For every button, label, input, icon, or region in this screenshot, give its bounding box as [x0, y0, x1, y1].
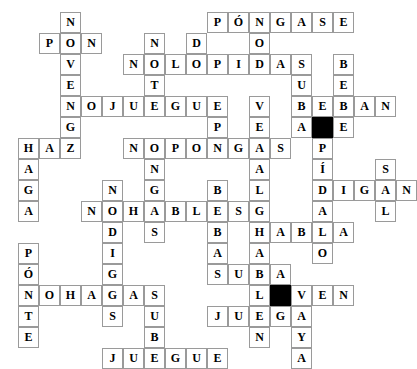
crossword-letter-cell[interactable]: J [102, 96, 123, 117]
crossword-letter-cell[interactable]: E [333, 117, 354, 138]
crossword-letter-cell[interactable]: Ó [228, 12, 249, 33]
crossword-letter-cell[interactable]: B [291, 96, 312, 117]
crossword-letter-cell[interactable]: A [123, 285, 144, 306]
crossword-letter-cell[interactable]: N [81, 33, 102, 54]
crossword-letter-cell[interactable]: S [102, 306, 123, 327]
crossword-letter-cell[interactable]: A [39, 138, 60, 159]
crossword-letter-cell[interactable]: Í [312, 159, 333, 180]
crossword-letter-cell[interactable]: E [333, 12, 354, 33]
crossword-letter-cell[interactable]: E [312, 285, 333, 306]
crossword-letter-cell[interactable]: G [18, 180, 39, 201]
crossword-letter-cell[interactable]: G [270, 12, 291, 33]
crossword-letter-cell[interactable]: N [102, 180, 123, 201]
crossword-letter-cell[interactable]: I [228, 54, 249, 75]
crossword-letter-cell[interactable]: A [144, 201, 165, 222]
crossword-letter-cell[interactable]: T [18, 306, 39, 327]
crossword-letter-cell[interactable]: G [102, 285, 123, 306]
crossword-letter-cell[interactable]: V [60, 54, 81, 75]
crossword-letter-cell[interactable]: E [249, 306, 270, 327]
crossword-letter-cell[interactable]: G [270, 306, 291, 327]
crossword-letter-cell[interactable]: T [144, 75, 165, 96]
crossword-letter-cell[interactable]: L [375, 201, 396, 222]
crossword-letter-cell[interactable]: A [312, 201, 333, 222]
crossword-letter-cell[interactable]: Y [291, 327, 312, 348]
crossword-letter-cell[interactable]: O [81, 96, 102, 117]
crossword-letter-cell[interactable]: E [18, 327, 39, 348]
crossword-letter-cell[interactable]: U [123, 348, 144, 369]
crossword-letter-cell[interactable]: S [144, 222, 165, 243]
crossword-letter-cell[interactable]: B [249, 264, 270, 285]
crossword-letter-cell[interactable]: O [249, 33, 270, 54]
crossword-letter-cell[interactable]: D [249, 54, 270, 75]
crossword-letter-cell[interactable]: J [102, 348, 123, 369]
crossword-letter-cell[interactable]: I [333, 180, 354, 201]
crossword-letter-cell[interactable]: O [312, 243, 333, 264]
crossword-letter-cell[interactable]: U [186, 96, 207, 117]
crossword-letter-cell[interactable]: A [291, 117, 312, 138]
crossword-letter-cell[interactable]: N [396, 180, 417, 201]
crossword-letter-cell[interactable]: G [165, 348, 186, 369]
crossword-letter-cell[interactable]: L [186, 201, 207, 222]
crossword-letter-cell[interactable]: H [60, 285, 81, 306]
crossword-block-cell[interactable] [270, 285, 291, 306]
crossword-letter-cell[interactable]: H [18, 138, 39, 159]
crossword-letter-cell[interactable]: N [81, 201, 102, 222]
crossword-letter-cell[interactable]: S [228, 201, 249, 222]
crossword-letter-cell[interactable]: B [333, 54, 354, 75]
crossword-letter-cell[interactable]: U [228, 264, 249, 285]
crossword-letter-cell[interactable]: O [144, 138, 165, 159]
crossword-letter-cell[interactable]: A [249, 159, 270, 180]
crossword-letter-cell[interactable]: L [249, 285, 270, 306]
crossword-letter-cell[interactable]: P [207, 117, 228, 138]
crossword-letter-cell[interactable]: A [207, 243, 228, 264]
crossword-letter-cell[interactable]: H [123, 201, 144, 222]
crossword-letter-cell[interactable]: N [249, 327, 270, 348]
crossword-letter-cell[interactable]: J [207, 306, 228, 327]
crossword-letter-cell[interactable]: S [291, 54, 312, 75]
crossword-letter-cell[interactable]: E [144, 348, 165, 369]
crossword-letter-cell[interactable]: O [186, 54, 207, 75]
crossword-letter-cell[interactable]: B [333, 96, 354, 117]
crossword-letter-cell[interactable]: A [270, 222, 291, 243]
crossword-letter-cell[interactable]: P [18, 243, 39, 264]
crossword-letter-cell[interactable]: N [249, 12, 270, 33]
crossword-letter-cell[interactable]: N [144, 159, 165, 180]
crossword-letter-cell[interactable]: B [207, 180, 228, 201]
crossword-letter-cell[interactable]: A [375, 180, 396, 201]
crossword-letter-cell[interactable]: P [165, 138, 186, 159]
crossword-letter-cell[interactable]: P [207, 54, 228, 75]
crossword-letter-cell[interactable]: P [312, 138, 333, 159]
crossword-letter-cell[interactable]: V [249, 96, 270, 117]
crossword-letter-cell[interactable]: A [81, 285, 102, 306]
crossword-letter-cell[interactable]: O [60, 33, 81, 54]
crossword-letter-cell[interactable]: G [102, 264, 123, 285]
crossword-letter-cell[interactable]: B [144, 327, 165, 348]
crossword-letter-cell[interactable]: Z [60, 138, 81, 159]
crossword-letter-cell[interactable]: D [102, 222, 123, 243]
crossword-letter-cell[interactable]: E [207, 348, 228, 369]
crossword-letter-cell[interactable]: A [333, 222, 354, 243]
crossword-letter-cell[interactable]: E [207, 201, 228, 222]
crossword-letter-cell[interactable]: U [144, 306, 165, 327]
crossword-letter-cell[interactable]: A [249, 138, 270, 159]
crossword-letter-cell[interactable]: E [333, 75, 354, 96]
crossword-letter-cell[interactable]: A [249, 243, 270, 264]
crossword-letter-cell[interactable]: S [270, 138, 291, 159]
crossword-letter-cell[interactable]: L [249, 180, 270, 201]
crossword-letter-cell[interactable]: A [291, 348, 312, 369]
crossword-letter-cell[interactable]: E [144, 96, 165, 117]
crossword-letter-cell[interactable]: G [60, 117, 81, 138]
crossword-letter-cell[interactable]: G [354, 180, 375, 201]
crossword-letter-cell[interactable]: A [291, 12, 312, 33]
crossword-letter-cell[interactable]: G [165, 96, 186, 117]
crossword-letter-cell[interactable]: N [207, 138, 228, 159]
crossword-letter-cell[interactable]: A [270, 54, 291, 75]
crossword-letter-cell[interactable]: P [39, 33, 60, 54]
crossword-letter-cell[interactable]: N [123, 138, 144, 159]
crossword-letter-cell[interactable]: B [207, 222, 228, 243]
crossword-letter-cell[interactable]: U [228, 306, 249, 327]
crossword-letter-cell[interactable]: E [207, 96, 228, 117]
crossword-letter-cell[interactable]: D [312, 180, 333, 201]
crossword-block-cell[interactable] [312, 117, 333, 138]
